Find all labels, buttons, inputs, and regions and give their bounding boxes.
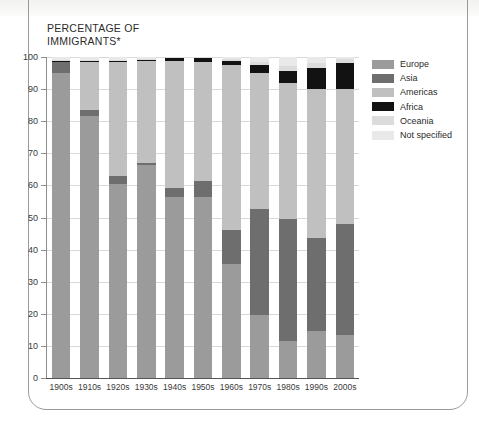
y-axis-tick-label: 100 (23, 52, 38, 62)
bar-segment-americas[interactable] (250, 73, 269, 209)
legend-item-oceania[interactable]: Oceania (372, 114, 472, 128)
bar-segment-oceania[interactable] (80, 60, 99, 61)
bar-segment-oceania[interactable] (194, 57, 213, 58)
bar-segment-africa[interactable] (80, 61, 99, 62)
bar-segment-asia[interactable] (52, 62, 71, 73)
bar-segment-oceania[interactable] (52, 60, 71, 61)
y-axis-tick (41, 89, 46, 90)
y-axis-tick-label: 40 (28, 245, 38, 255)
bar-segment-europe[interactable] (109, 184, 128, 378)
bar-segment-asia[interactable] (109, 176, 128, 184)
bar-segment-not-specified[interactable] (307, 57, 326, 63)
x-axis-line (46, 378, 359, 379)
bar-segment-europe[interactable] (165, 197, 184, 378)
legend-label: Asia (400, 73, 418, 83)
x-axis-label-1930s: 1930s (135, 382, 158, 392)
y-axis-tick-label: 20 (28, 309, 38, 319)
bar-segment-not-specified[interactable] (109, 57, 128, 60)
bar-1940s[interactable] (165, 57, 184, 378)
bar-segment-americas[interactable] (165, 61, 184, 188)
bar-segment-europe[interactable] (336, 335, 355, 378)
bar-segment-not-specified[interactable] (336, 57, 355, 59)
y-axis-tick (41, 346, 46, 347)
legend-label: Oceania (400, 116, 434, 126)
bar-segment-oceania[interactable] (222, 59, 241, 61)
bar-group (47, 57, 359, 378)
bar-segment-asia[interactable] (307, 238, 326, 331)
bar-segment-europe[interactable] (250, 315, 269, 378)
bar-1990s[interactable] (307, 57, 326, 378)
bar-segment-not-specified[interactable] (279, 57, 298, 66)
bar-segment-americas[interactable] (137, 60, 156, 163)
bar-segment-americas[interactable] (307, 89, 326, 238)
bar-segment-europe[interactable] (279, 341, 298, 378)
legend-label: Americas (400, 87, 438, 97)
bar-segment-europe[interactable] (194, 197, 213, 378)
bar-segment-africa[interactable] (336, 63, 355, 89)
bar-segment-europe[interactable] (307, 331, 326, 378)
bar-segment-not-specified[interactable] (137, 57, 156, 59)
bar-1920s[interactable] (109, 57, 128, 378)
bar-1980s[interactable] (279, 57, 298, 378)
y-axis-tick-label: 80 (28, 116, 38, 126)
bar-segment-oceania[interactable] (336, 59, 355, 63)
y-axis-tick (41, 153, 46, 154)
bar-segment-oceania[interactable] (109, 60, 128, 61)
bar-1950s[interactable] (194, 57, 213, 378)
bar-1930s[interactable] (137, 57, 156, 378)
legend-item-not-specified[interactable]: Not specified (372, 128, 472, 142)
bar-segment-europe[interactable] (222, 264, 241, 378)
bar-segment-africa[interactable] (307, 68, 326, 89)
bar-segment-oceania[interactable] (165, 57, 184, 58)
bar-segment-oceania[interactable] (137, 59, 156, 60)
bar-segment-africa[interactable] (109, 61, 128, 62)
legend-swatch-icon (372, 60, 394, 69)
bar-segment-asia[interactable] (137, 163, 156, 165)
bar-segment-americas[interactable] (109, 62, 128, 176)
bar-2000s[interactable] (336, 57, 355, 378)
legend-label: Africa (400, 102, 423, 112)
bar-segment-not-specified[interactable] (80, 57, 99, 60)
bar-segment-not-specified[interactable] (52, 57, 71, 60)
bar-segment-asia[interactable] (194, 181, 213, 197)
bar-segment-europe[interactable] (52, 73, 71, 378)
bar-segment-americas[interactable] (279, 83, 298, 219)
legend-label: Europe (400, 59, 429, 69)
bar-segment-asia[interactable] (80, 110, 99, 116)
bar-segment-africa[interactable] (194, 58, 213, 62)
y-axis-tick-label: 30 (28, 277, 38, 287)
bar-segment-americas[interactable] (80, 62, 99, 110)
bar-segment-africa[interactable] (279, 71, 298, 82)
bar-segment-americas[interactable] (222, 65, 241, 230)
bar-1910s[interactable] (80, 57, 99, 378)
bar-segment-oceania[interactable] (307, 63, 326, 68)
bar-1960s[interactable] (222, 57, 241, 378)
x-axis-label-1910s: 1910s (78, 382, 101, 392)
bar-segment-asia[interactable] (250, 209, 269, 315)
bar-segment-europe[interactable] (137, 165, 156, 378)
bar-segment-not-specified[interactable] (250, 57, 269, 62)
bar-segment-africa[interactable] (222, 61, 241, 65)
bar-segment-asia[interactable] (336, 224, 355, 335)
bar-1900s[interactable] (52, 57, 71, 378)
legend-item-americas[interactable]: Americas (372, 85, 472, 99)
y-axis-tick (41, 250, 46, 251)
x-axis-label-1980s: 1980s (276, 382, 299, 392)
bar-segment-americas[interactable] (336, 89, 355, 224)
bar-segment-europe[interactable] (80, 116, 99, 378)
bar-segment-africa[interactable] (137, 60, 156, 61)
bar-segment-africa[interactable] (250, 65, 269, 73)
bar-segment-asia[interactable] (222, 230, 241, 264)
bar-segment-oceania[interactable] (250, 62, 269, 65)
bar-segment-asia[interactable] (279, 219, 298, 341)
bar-segment-asia[interactable] (165, 188, 184, 197)
bar-1970s[interactable] (250, 57, 269, 378)
bar-segment-not-specified[interactable] (222, 57, 241, 59)
bar-segment-oceania[interactable] (279, 66, 298, 72)
bar-segment-americas[interactable] (194, 62, 213, 181)
x-axis-label-2000s: 2000s (333, 382, 356, 392)
bar-segment-africa[interactable] (165, 58, 184, 61)
legend-item-europe[interactable]: Europe (372, 57, 472, 71)
legend-item-africa[interactable]: Africa (372, 100, 472, 114)
legend-item-asia[interactable]: Asia (372, 71, 472, 85)
